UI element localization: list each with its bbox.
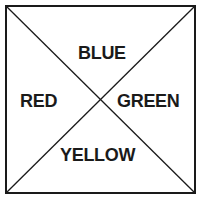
- label-red: RED: [20, 92, 57, 110]
- label-yellow: YELLOW: [60, 146, 135, 164]
- label-blue: BLUE: [78, 44, 126, 62]
- label-green: GREEN: [117, 92, 180, 110]
